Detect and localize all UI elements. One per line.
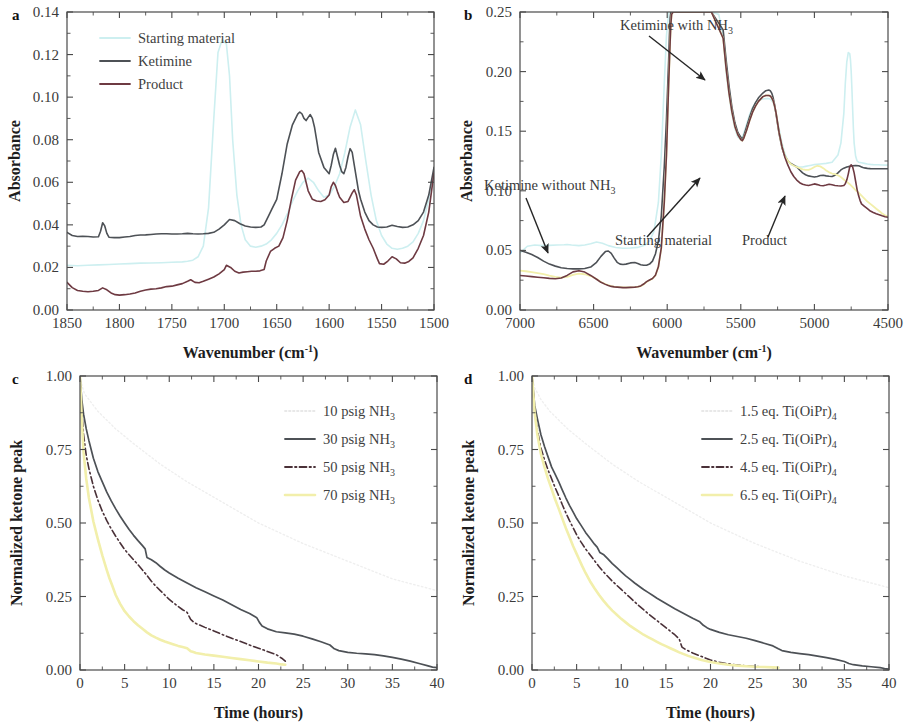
panel_b-series-1 bbox=[520, 12, 888, 269]
panel_c-legend-label-3: 70 psig NH3 bbox=[323, 487, 395, 506]
panel_a-ytick-label: 0.14 bbox=[33, 4, 60, 20]
panel-b: b7000650060005500500045000.000.050.100.1… bbox=[452, 0, 904, 364]
panel_a-yaxis-title: Absorbance bbox=[6, 120, 23, 202]
panel_a-series-0 bbox=[67, 40, 434, 266]
panel_b-annotation-3: Product bbox=[742, 232, 787, 248]
panel_a-ytick-label: 0.04 bbox=[33, 217, 60, 233]
panel_c-legend-label-main-0: 10 psig NH bbox=[323, 403, 390, 419]
panel_d-xtick-label: 25 bbox=[748, 675, 763, 691]
panel_a-xaxis-title-tail: ) bbox=[313, 344, 318, 362]
panel_d-xtick-label: 0 bbox=[528, 675, 536, 691]
panel_a-letter: a bbox=[12, 7, 20, 23]
panel_c-letter: c bbox=[12, 371, 19, 387]
panel_c-legend-label-0: 10 psig NH3 bbox=[323, 403, 395, 422]
panel_c-legend-label-sub-0: 3 bbox=[390, 411, 395, 422]
panel_a-ytick-label: 0.10 bbox=[33, 89, 59, 105]
panel_d-letter: d bbox=[464, 371, 473, 387]
panel_d-legend-label-main-2: 4.5 eq. Ti(OiPr) bbox=[740, 459, 832, 476]
panel_a-xaxis-title-sup: -1 bbox=[305, 343, 313, 354]
panel_c-ytick-label: 1.00 bbox=[46, 368, 72, 384]
panel_c-legend-label-sub-2: 3 bbox=[390, 467, 395, 478]
panel_c-xtick-label: 5 bbox=[121, 675, 129, 691]
panel_b-xtick-label: 5500 bbox=[726, 315, 756, 331]
panel_c-legend-label-main-3: 70 psig NH bbox=[323, 487, 390, 503]
panel_d-ytick-label: 0.00 bbox=[498, 662, 524, 678]
panel_b-ytick-label: 0.05 bbox=[486, 242, 512, 258]
panel_a-xtick-label: 1650 bbox=[262, 315, 292, 331]
panel_d-legend-label-main-3: 6.5 eq. Ti(OiPr) bbox=[740, 487, 832, 504]
panel_c-ytick-label: 0.00 bbox=[46, 662, 72, 678]
panel_b-annotation-sub-0: 3 bbox=[728, 25, 733, 36]
panel_c-legend: 10 psig NH330 psig NH350 psig NH370 psig… bbox=[285, 403, 395, 506]
panel_d-legend-label-2: 4.5 eq. Ti(OiPr)4 bbox=[740, 459, 837, 478]
panel_d-xtick-label: 20 bbox=[703, 675, 718, 691]
panel_a-ytick-label: 0.02 bbox=[33, 259, 59, 275]
panel_a-xtick-label: 1600 bbox=[314, 315, 344, 331]
panel_d-xtick-label: 10 bbox=[614, 675, 629, 691]
panel_d-series-3 bbox=[532, 376, 778, 668]
panel_c-xaxis-title: Time (hours) bbox=[214, 704, 303, 722]
panel_b-annotation-arrow-0 bbox=[649, 36, 705, 80]
panel_b-annotation-0: Ketimine with NH3 bbox=[620, 17, 733, 36]
panel_c-legend-label-main-1: 30 psig NH bbox=[323, 431, 390, 447]
panel_c-chart: c05101520253035400.000.250.500.751.00Tim… bbox=[0, 364, 452, 728]
panel_d-ytick-label: 0.25 bbox=[498, 589, 524, 605]
panel_d-ytick-label: 0.50 bbox=[498, 515, 524, 531]
panel_b-annotation-main-0: Ketimine with NH bbox=[620, 17, 728, 33]
panel_a-xtick-label: 1500 bbox=[419, 315, 449, 331]
panel_c-legend-label-2: 50 psig NH3 bbox=[323, 459, 395, 478]
figure-root: a185018001750170016501600155015000.000.0… bbox=[0, 0, 904, 728]
panel_d-xtick-label: 40 bbox=[882, 675, 897, 691]
panel_a-ytick-label: 0.12 bbox=[33, 47, 59, 63]
panel_c-yaxis-title: Normalized ketone peak bbox=[8, 440, 26, 606]
panel_a-legend-label-1: Ketimine bbox=[138, 53, 192, 69]
panel_d-ytick-label: 0.75 bbox=[498, 442, 524, 458]
panel_c-xtick-label: 20 bbox=[251, 675, 266, 691]
panel_c-legend-label-main-2: 50 psig NH bbox=[323, 459, 390, 475]
panel_a-series-group bbox=[67, 40, 434, 295]
panel_c-series-1 bbox=[80, 376, 437, 668]
panel_b-annotation-arrow-3 bbox=[768, 196, 785, 237]
panel_b-annotation-sub-1: 3 bbox=[610, 185, 615, 196]
panel_c-ytick-label: 0.50 bbox=[46, 515, 72, 531]
panel_d-series-2 bbox=[532, 376, 778, 668]
panel-d: d05101520253035400.000.250.500.751.00Tim… bbox=[452, 364, 904, 728]
panel_c-legend-label-1: 30 psig NH3 bbox=[323, 431, 395, 450]
panel_b-xtick-label: 5000 bbox=[799, 315, 829, 331]
panel_d-legend-label-sub-1: 4 bbox=[832, 439, 837, 450]
panel_b-xaxis-title-tail: ) bbox=[766, 344, 771, 362]
panel_c-legend-label-sub-3: 3 bbox=[390, 495, 395, 506]
panel_d-xtick-label: 15 bbox=[658, 675, 673, 691]
panel_d-legend-label-3: 6.5 eq. Ti(OiPr)4 bbox=[740, 487, 837, 506]
panel_d-yaxis-title: Normalized ketone peak bbox=[460, 440, 478, 606]
panel_c-xtick-label: 15 bbox=[206, 675, 221, 691]
panel_a-plot-frame bbox=[67, 12, 434, 310]
panel-a: a185018001750170016501600155015000.000.0… bbox=[0, 0, 452, 364]
panel_a-xtick-label: 1750 bbox=[157, 315, 187, 331]
panel_a-legend-label-0: Starting material bbox=[138, 30, 235, 46]
panel_a-xtick-label: 1700 bbox=[209, 315, 239, 331]
panel_c-ytick-label: 0.25 bbox=[46, 589, 72, 605]
panel_a-chart: a185018001750170016501600155015000.000.0… bbox=[0, 0, 452, 364]
panel_d-xtick-label: 30 bbox=[792, 675, 807, 691]
panel_a-ytick-label: 0.00 bbox=[33, 302, 59, 318]
panel_d-legend-label-main-0: 1.5 eq. Ti(OiPr) bbox=[740, 403, 832, 420]
panel_c-xtick-label: 10 bbox=[162, 675, 177, 691]
panel_b-annotation-main-1: Ketimine without NH bbox=[484, 177, 611, 193]
panel_c-xtick-label: 30 bbox=[340, 675, 355, 691]
panel_b-annotation-2: Starting material bbox=[615, 232, 712, 248]
panel_d-legend-label-main-1: 2.5 eq. Ti(OiPr) bbox=[740, 431, 832, 448]
panel_b-letter: b bbox=[464, 7, 472, 23]
panel_b-xaxis-title-main: Wavenumber (cm bbox=[636, 344, 759, 362]
panel_d-xaxis-title: Time (hours) bbox=[666, 704, 755, 722]
panel_a-series-1 bbox=[67, 112, 434, 238]
panel_b-xaxis-title-sup: -1 bbox=[758, 343, 766, 354]
panel_b-ytick-label: 0.25 bbox=[486, 4, 512, 20]
panel_b-series-0 bbox=[520, 12, 888, 253]
panel_d-legend-label-1: 2.5 eq. Ti(OiPr)4 bbox=[740, 431, 837, 450]
panel_d-legend-label-sub-2: 4 bbox=[832, 467, 837, 478]
panel_d-series-0 bbox=[532, 376, 889, 588]
panel_b-ytick-label: 0.00 bbox=[486, 302, 512, 318]
panel_a-xaxis-title: Wavenumber (cm-1) bbox=[183, 343, 319, 362]
panel_a-xtick-label: 1800 bbox=[104, 315, 134, 331]
